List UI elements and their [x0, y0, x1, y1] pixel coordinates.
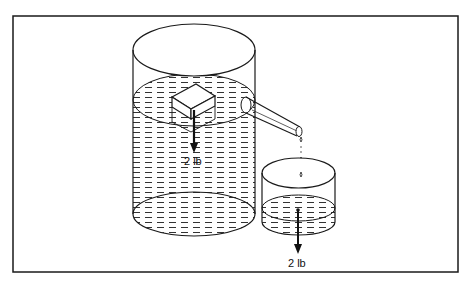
overflow-weight-label: 2 lb [288, 257, 306, 269]
block-weight-label: 2 lb [184, 155, 202, 167]
archimedes-diagram [0, 0, 470, 285]
